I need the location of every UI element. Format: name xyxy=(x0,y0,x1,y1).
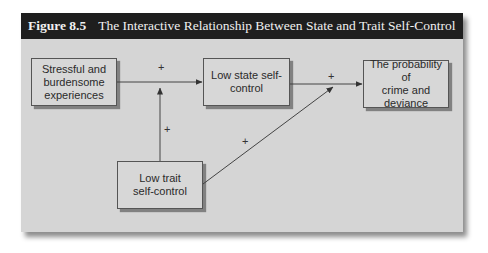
node-label-line: Low state self- xyxy=(211,69,282,82)
node-stressful-experiences: Stressful and burdensome experiences xyxy=(31,58,117,106)
figure-title: The Interactive Relationship Between Sta… xyxy=(98,18,455,33)
node-label-line: Stressful and xyxy=(42,63,106,76)
figure-number: Figure 8.5 xyxy=(28,18,86,33)
node-probability-crime-deviance: The probability of crime and deviance xyxy=(363,60,449,108)
node-low-state-self-control: Low state self- control xyxy=(203,58,290,106)
node-label-line: deviance xyxy=(364,97,448,110)
edge-sign-stress-state: + xyxy=(158,62,164,73)
edge-sign-state-outcome: + xyxy=(328,71,334,82)
node-label-line: Low trait xyxy=(133,172,187,185)
node-label-line: burdensome xyxy=(42,76,106,89)
node-label-line: experiences xyxy=(42,89,106,102)
node-low-trait-self-control: Low trait self-control xyxy=(117,161,203,209)
figure-header: Figure 8.5The Interactive Relationship B… xyxy=(21,13,463,39)
node-label-line: crime and xyxy=(364,84,448,97)
edge-sign-trait-moderation-1: + xyxy=(164,124,170,135)
node-label-line: control xyxy=(211,82,282,95)
edge-sign-trait-moderation-2: + xyxy=(242,136,248,147)
node-label-line: The probability of xyxy=(364,58,448,84)
node-label-line: self-control xyxy=(133,185,187,198)
figure-panel: Figure 8.5The Interactive Relationship B… xyxy=(21,13,463,232)
